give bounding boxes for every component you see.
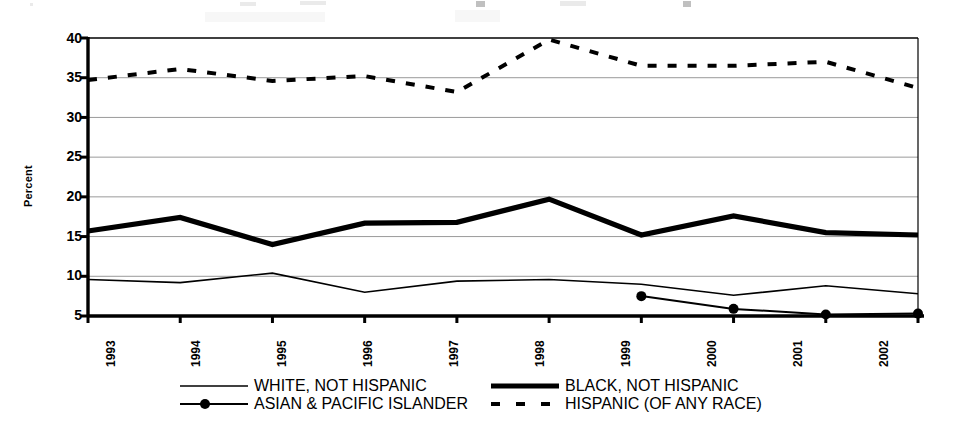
dashed-line-swatch: [489, 397, 561, 411]
legend-item-black-not-hispanic[interactable]: BLACK, NOT HISPANIC: [489, 379, 739, 393]
legend-item-hispanic-any-race[interactable]: HISPANIC (OF ANY RACE): [489, 397, 762, 411]
axis-frame: [87, 37, 924, 317]
solid-thick-line-swatch: [489, 379, 561, 393]
legend-item-white-not-hispanic[interactable]: WHITE, NOT HISPANIC: [178, 379, 427, 393]
legend-label: WHITE, NOT HISPANIC: [254, 379, 427, 393]
legend-item-asian-pacific-islander[interactable]: ASIAN & PACIFIC ISLANDER: [178, 397, 468, 411]
legend-label: BLACK, NOT HISPANIC: [565, 379, 739, 393]
gridlines: [88, 78, 918, 277]
line-with-dot-marker-swatch: [178, 397, 250, 411]
plot-area: [0, 0, 963, 430]
legend-label: ASIAN & PACIFIC ISLANDER: [254, 397, 468, 411]
legend-label: HISPANIC (OF ANY RACE): [565, 397, 762, 411]
solid-thin-line-swatch: [178, 379, 250, 393]
line-chart: Percent 40 35 30 25 20 15 10 5 1993 1994…: [0, 0, 963, 430]
data-series-layer: [88, 40, 923, 320]
